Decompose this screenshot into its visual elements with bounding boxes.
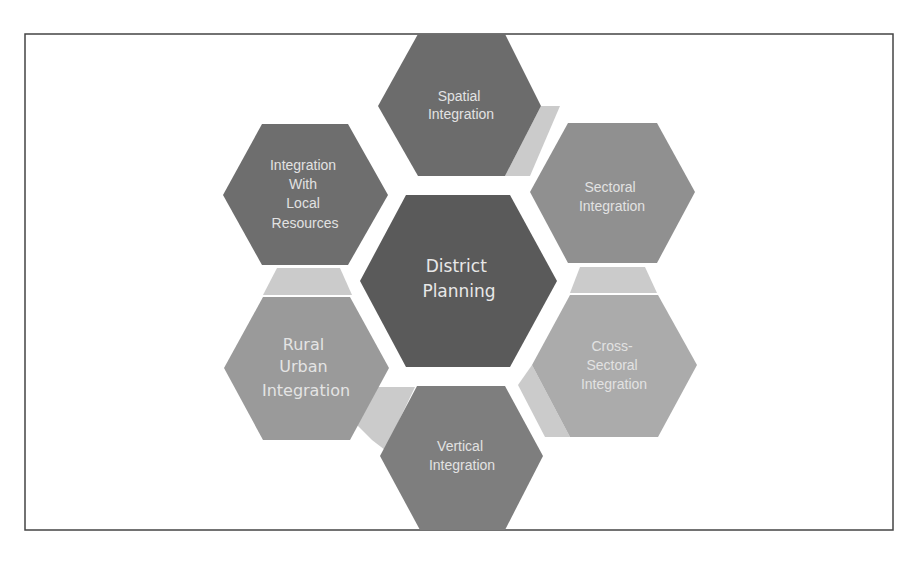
diagram-canvas: Spatial Integration Sectoral Integration… [0, 0, 923, 562]
connector-sectoral-cross [570, 267, 657, 293]
connector-rural-local [263, 268, 352, 295]
